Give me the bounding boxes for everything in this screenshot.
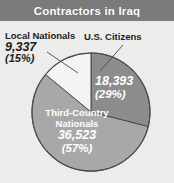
label-third-country-percent: (57%) (25, 142, 129, 155)
chart-figure: Contractors in Iraq Loca (0, 0, 174, 183)
page-title: Contractors in Iraq (34, 5, 141, 17)
pie-chart: Local Nationals 9,337 (15%) U.S. Citizen… (0, 21, 174, 183)
label-third-country-name-line1: Third-Country (25, 107, 129, 118)
label-us-citizens-values: 18,393 (29%) (95, 75, 133, 101)
label-us-citizens-name: U.S. Citizens (84, 31, 142, 42)
label-third-country-value: 36,523 (25, 129, 129, 142)
label-local-nationals: Local Nationals 9,337 (15%) (5, 30, 75, 64)
label-us-citizens-percent: (29%) (95, 88, 133, 101)
chart-title-bar: Contractors in Iraq (0, 0, 174, 21)
label-local-nationals-percent: (15%) (5, 52, 75, 64)
label-us-citizens-value: 18,393 (95, 75, 133, 88)
label-us-citizens: U.S. Citizens (84, 31, 142, 42)
label-third-country-nationals: Third-Country Nationals 36,523 (57%) (25, 107, 129, 155)
chart-plot-area: Local Nationals 9,337 (15%) U.S. Citizen… (0, 21, 174, 183)
